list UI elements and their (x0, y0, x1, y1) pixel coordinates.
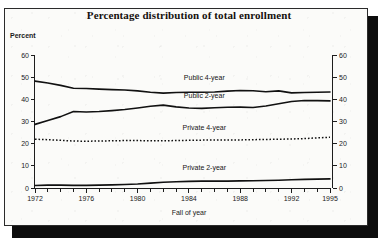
y-axis-left-tick-label: 0 (25, 185, 29, 192)
y-axis-right-tick-label: 0 (339, 185, 343, 192)
series-label-public-2-year: Public 2-year (184, 92, 226, 100)
series-label-public-4-year: Public 4-year (184, 74, 226, 82)
x-axis-tick-label: 1992 (284, 195, 300, 202)
x-axis-tick-label: 1972 (27, 195, 43, 202)
chart-plot-area: 0102030405060010203040506019721976198019… (0, 0, 378, 238)
series-line-private-4-year (35, 137, 330, 141)
series-label-private-4-year: Private 4-year (183, 124, 227, 132)
series-line-public-2-year (35, 100, 330, 124)
x-axis-tick-label: 1984 (181, 195, 197, 202)
x-axis-tick-label: 1980 (130, 195, 146, 202)
y-axis-right-tick-label: 40 (339, 96, 347, 103)
y-axis-left-tick-label: 40 (21, 96, 29, 103)
y-axis-left-tick-label: 30 (21, 118, 29, 125)
series-line-private-2-year (35, 179, 330, 186)
y-axis-left-tick-label: 50 (21, 74, 29, 81)
y-axis-right-tick-label: 10 (339, 162, 347, 169)
y-axis-right-tick-label: 20 (339, 140, 347, 147)
y-axis-right-tick-label: 60 (339, 52, 347, 59)
x-axis-tick-label: 1976 (79, 195, 95, 202)
y-axis-left-tick-label: 20 (21, 140, 29, 147)
series-label-group: Public 4-yearPublic 2-yearPrivate 4-year… (183, 74, 227, 172)
x-axis-tick-label: 1988 (232, 195, 248, 202)
y-axis-left-tick-label: 10 (21, 162, 29, 169)
series-line-public-4-year (35, 81, 330, 93)
y-axis-right-tick-label: 50 (339, 74, 347, 81)
y-axis-left-tick-label: 60 (21, 52, 29, 59)
y-axis-right-tick-label: 30 (339, 118, 347, 125)
x-axis-tick-label: 1995 (322, 195, 338, 202)
series-label-private-2-year: Private 2-year (183, 164, 227, 172)
chart-screenshot: Percentage distribution of total enrollm… (0, 0, 378, 238)
